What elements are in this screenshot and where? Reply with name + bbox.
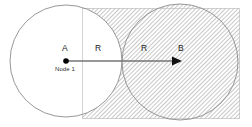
diagram-canvas xyxy=(0,0,252,127)
label-radius-left: R xyxy=(95,44,101,53)
label-point-b: B xyxy=(178,44,184,53)
label-radius-right: R xyxy=(141,44,147,53)
filled-circle-icon xyxy=(63,58,69,64)
figure-container: A R R B Node 1 xyxy=(0,0,252,127)
hatched-coverage-region xyxy=(0,0,252,127)
label-node-1: Node 1 xyxy=(55,66,75,72)
label-point-a: A xyxy=(62,44,68,53)
